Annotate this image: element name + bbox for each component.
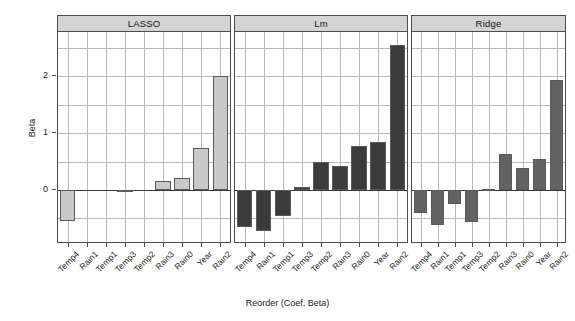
panel-strip-label: Lm bbox=[235, 16, 407, 32]
zero-baseline bbox=[58, 190, 230, 191]
vertical-gridline bbox=[506, 32, 507, 242]
x-tick-mark bbox=[438, 243, 439, 247]
facet-panel-lm: Lm bbox=[234, 15, 408, 243]
x-tick-mark bbox=[540, 243, 541, 247]
bar-rain2 bbox=[550, 80, 564, 190]
x-tick-mark bbox=[397, 243, 398, 247]
x-tick-mark bbox=[144, 243, 145, 247]
x-tick-mark bbox=[523, 243, 524, 247]
bar-year bbox=[193, 148, 209, 190]
bar-temp3 bbox=[465, 190, 479, 222]
bar-temp4 bbox=[414, 190, 428, 213]
x-tick-mark bbox=[321, 243, 322, 247]
x-tick-mark bbox=[421, 243, 422, 247]
horizontal-gridline bbox=[235, 76, 407, 77]
x-tick-mark bbox=[340, 243, 341, 247]
x-axis-title: Reorder (Coef, Beta) bbox=[0, 298, 575, 308]
x-tick-mark bbox=[125, 243, 126, 247]
bar-year bbox=[533, 159, 547, 190]
vertical-gridline bbox=[359, 32, 360, 242]
x-tick-mark bbox=[220, 243, 221, 247]
x-tick-mark bbox=[283, 243, 284, 247]
y-tick-label: 0 bbox=[22, 185, 48, 194]
vertical-gridline bbox=[182, 32, 183, 242]
plot-area bbox=[235, 32, 407, 242]
y-tick-mark bbox=[52, 189, 56, 190]
bar-rain1 bbox=[256, 190, 272, 231]
facet-panel-ridge: Ridge bbox=[411, 15, 566, 243]
y-tick-label: 2 bbox=[22, 71, 48, 80]
y-tick-mark bbox=[52, 75, 56, 76]
x-tick-mark bbox=[455, 243, 456, 247]
x-tick-mark bbox=[163, 243, 164, 247]
vertical-gridline bbox=[302, 32, 303, 242]
x-tick-mark bbox=[557, 243, 558, 247]
horizontal-gridline bbox=[58, 48, 230, 49]
horizontal-gridline bbox=[235, 105, 407, 106]
horizontal-gridline bbox=[235, 133, 407, 134]
bar-year bbox=[370, 142, 386, 190]
facet-panel-lasso: LASSO bbox=[57, 15, 231, 243]
horizontal-gridline bbox=[412, 133, 565, 134]
vertical-gridline bbox=[201, 32, 202, 242]
bar-temp3 bbox=[117, 190, 133, 192]
horizontal-gridline bbox=[412, 48, 565, 49]
vertical-gridline bbox=[489, 32, 490, 242]
x-tick-mark bbox=[182, 243, 183, 247]
bar-temp4 bbox=[60, 190, 76, 221]
plot-area bbox=[58, 32, 230, 242]
x-tick-mark bbox=[472, 243, 473, 247]
horizontal-gridline bbox=[235, 48, 407, 49]
horizontal-gridline bbox=[412, 105, 565, 106]
x-tick-mark bbox=[359, 243, 360, 247]
bar-rain3 bbox=[499, 154, 513, 190]
bar-rain2 bbox=[390, 45, 406, 190]
bar-rain2 bbox=[213, 76, 229, 190]
horizontal-gridline bbox=[58, 133, 230, 134]
vertical-gridline bbox=[125, 32, 126, 242]
horizontal-gridline bbox=[412, 76, 565, 77]
vertical-gridline bbox=[144, 32, 145, 242]
panel-strip-label: LASSO bbox=[58, 16, 230, 32]
vertical-gridline bbox=[106, 32, 107, 242]
bar-temp2 bbox=[313, 162, 329, 190]
x-tick-mark bbox=[264, 243, 265, 247]
vertical-gridline bbox=[321, 32, 322, 242]
x-tick-mark bbox=[245, 243, 246, 247]
panel-strip-label: Ridge bbox=[412, 16, 565, 32]
facet-bar-chart-figure: Beta Reorder (Coef, Beta) 012 LASSOTemp4… bbox=[0, 0, 575, 321]
x-tick-mark bbox=[87, 243, 88, 247]
bar-rain3 bbox=[332, 166, 348, 190]
bar-rain0 bbox=[516, 168, 530, 190]
x-tick-mark bbox=[302, 243, 303, 247]
horizontal-gridline bbox=[58, 218, 230, 219]
bar-temp3 bbox=[294, 187, 310, 190]
x-tick-mark bbox=[489, 243, 490, 247]
x-tick-mark bbox=[68, 243, 69, 247]
bar-rain3 bbox=[155, 181, 171, 190]
bar-temp1 bbox=[275, 190, 291, 216]
horizontal-gridline bbox=[58, 76, 230, 77]
bar-rain1 bbox=[431, 190, 445, 225]
vertical-gridline bbox=[455, 32, 456, 242]
plot-area bbox=[412, 32, 565, 242]
vertical-gridline bbox=[540, 32, 541, 242]
vertical-gridline bbox=[163, 32, 164, 242]
vertical-gridline bbox=[378, 32, 379, 242]
x-tick-mark bbox=[106, 243, 107, 247]
bar-temp1 bbox=[448, 190, 462, 204]
bar-rain0 bbox=[351, 146, 367, 190]
y-tick-mark bbox=[52, 132, 56, 133]
bar-temp2 bbox=[482, 189, 496, 191]
bar-rain0 bbox=[174, 178, 190, 191]
vertical-gridline bbox=[87, 32, 88, 242]
x-tick-mark bbox=[378, 243, 379, 247]
y-tick-label: 1 bbox=[22, 128, 48, 137]
x-tick-mark bbox=[506, 243, 507, 247]
bar-temp4 bbox=[237, 190, 253, 227]
vertical-gridline bbox=[523, 32, 524, 242]
vertical-gridline bbox=[340, 32, 341, 242]
x-tick-mark bbox=[201, 243, 202, 247]
horizontal-gridline bbox=[58, 105, 230, 106]
